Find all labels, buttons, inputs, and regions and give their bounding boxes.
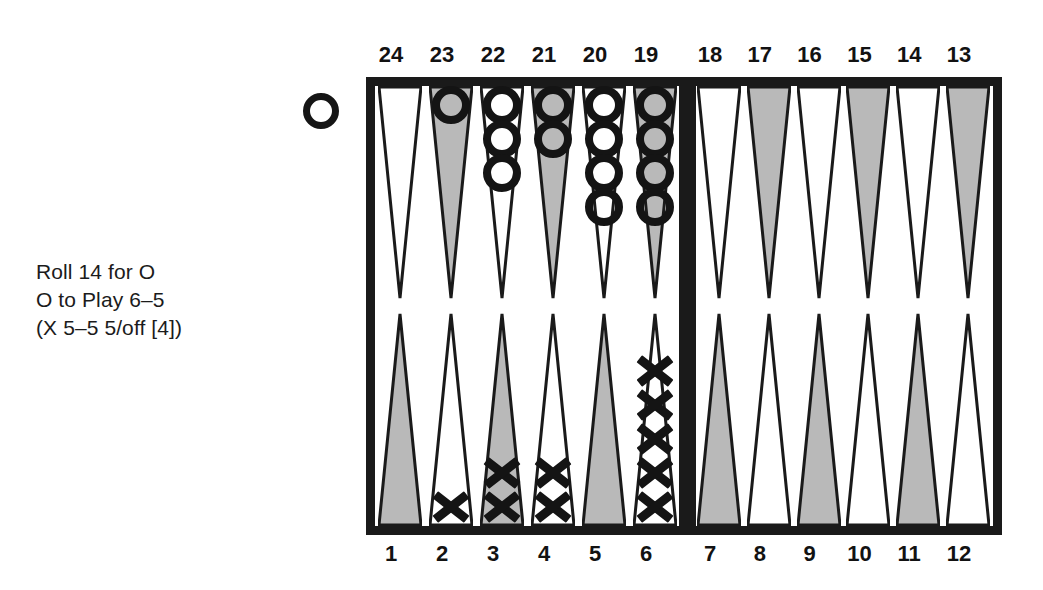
- x-checker-icon[interactable]: [636, 352, 674, 390]
- point-number-6: 6: [624, 541, 668, 567]
- checker-stack-point-4[interactable]: [531, 456, 575, 524]
- backgammon-diagram: Roll 14 for O O to Play 6–5 (X 5–5 5/off…: [0, 0, 1043, 590]
- point-number-16: 16: [788, 42, 832, 68]
- o-checker-icon[interactable]: [534, 120, 572, 158]
- quadrant-bottom-left: [378, 312, 677, 526]
- o-checker-icon[interactable]: [483, 154, 521, 192]
- backgammon-board: [366, 77, 1002, 535]
- checker-stack-point-23[interactable]: [429, 88, 473, 122]
- point-22[interactable]: [480, 86, 524, 300]
- checker-stack-point-19[interactable]: [633, 88, 677, 224]
- point-number-14: 14: [887, 42, 931, 68]
- point-number-24: 24: [369, 42, 413, 68]
- point-6[interactable]: [633, 312, 677, 526]
- o-checker-icon[interactable]: [534, 86, 572, 124]
- point-number-12: 12: [937, 541, 981, 567]
- point-number-8: 8: [738, 541, 782, 567]
- point-numbers-top-right: 181716151413: [688, 42, 981, 68]
- point-2[interactable]: [429, 312, 473, 526]
- checker-stack-point-2[interactable]: [429, 490, 473, 524]
- x-checker-icon[interactable]: [636, 454, 674, 492]
- point-numbers-bottom-left: 123456: [369, 541, 668, 567]
- point-16[interactable]: [797, 86, 841, 300]
- point-10[interactable]: [846, 312, 890, 526]
- point-number-15: 15: [837, 42, 881, 68]
- o-checker-icon[interactable]: [636, 188, 674, 226]
- checker-stack-point-6[interactable]: [633, 354, 677, 524]
- point-18[interactable]: [697, 86, 741, 300]
- o-checker-icon[interactable]: [585, 86, 623, 124]
- point-24[interactable]: [378, 86, 422, 300]
- o-checker-icon[interactable]: [432, 86, 470, 124]
- caption-play-line: O to Play 6–5: [36, 286, 296, 314]
- x-checker-icon[interactable]: [636, 488, 674, 526]
- point-5[interactable]: [582, 312, 626, 526]
- point-number-9: 9: [788, 541, 832, 567]
- point-23[interactable]: [429, 86, 473, 300]
- o-checker-icon[interactable]: [483, 86, 521, 124]
- point-13[interactable]: [946, 86, 990, 300]
- point-numbers-top-left: 242322212019: [369, 42, 668, 68]
- point-number-4: 4: [522, 541, 566, 567]
- caption-opponent-line: (X 5–5 5/off [4]): [36, 314, 296, 342]
- point-15[interactable]: [846, 86, 890, 300]
- point-number-21: 21: [522, 42, 566, 68]
- o-checker-icon[interactable]: [585, 188, 623, 226]
- o-checker-icon[interactable]: [585, 154, 623, 192]
- checker-stack-point-22[interactable]: [480, 88, 524, 190]
- point-numbers-bottom-right: 789101112: [688, 541, 981, 567]
- o-checker-icon[interactable]: [636, 120, 674, 158]
- x-checker-icon[interactable]: [534, 488, 572, 526]
- point-number-10: 10: [837, 541, 881, 567]
- o-checker-icon[interactable]: [636, 154, 674, 192]
- caption-roll-line: Roll 14 for O: [36, 258, 296, 286]
- point-1[interactable]: [378, 312, 422, 526]
- quadrant-top-right: [697, 86, 990, 300]
- point-12[interactable]: [946, 312, 990, 526]
- x-checker-icon[interactable]: [636, 386, 674, 424]
- point-number-20: 20: [573, 42, 617, 68]
- point-number-11: 11: [887, 541, 931, 567]
- point-number-13: 13: [937, 42, 981, 68]
- point-number-19: 19: [624, 42, 668, 68]
- o-checker-icon[interactable]: [636, 86, 674, 124]
- point-8[interactable]: [747, 312, 791, 526]
- quadrant-top-left: [378, 86, 677, 300]
- off-board-o-checker-icon: [303, 93, 339, 129]
- point-3[interactable]: [480, 312, 524, 526]
- point-17[interactable]: [747, 86, 791, 300]
- point-19[interactable]: [633, 86, 677, 300]
- checker-stack-point-21[interactable]: [531, 88, 575, 156]
- point-21[interactable]: [531, 86, 575, 300]
- point-number-17: 17: [738, 42, 782, 68]
- checker-stack-point-20[interactable]: [582, 88, 626, 224]
- point-number-2: 2: [420, 541, 464, 567]
- point-11[interactable]: [896, 312, 940, 526]
- point-number-3: 3: [471, 541, 515, 567]
- board-playing-surface: [375, 86, 993, 526]
- o-checker-icon[interactable]: [483, 120, 521, 158]
- x-checker-icon[interactable]: [483, 488, 521, 526]
- point-number-23: 23: [420, 42, 464, 68]
- point-20[interactable]: [582, 86, 626, 300]
- point-number-5: 5: [573, 541, 617, 567]
- position-caption: Roll 14 for O O to Play 6–5 (X 5–5 5/off…: [36, 258, 296, 342]
- point-4[interactable]: [531, 312, 575, 526]
- point-number-18: 18: [688, 42, 732, 68]
- point-number-1: 1: [369, 541, 413, 567]
- x-checker-icon[interactable]: [534, 454, 572, 492]
- x-checker-icon[interactable]: [636, 420, 674, 458]
- quadrant-bottom-right: [697, 312, 990, 526]
- checker-stack-point-3[interactable]: [480, 456, 524, 524]
- o-checker-icon[interactable]: [585, 120, 623, 158]
- point-number-22: 22: [471, 42, 515, 68]
- point-14[interactable]: [896, 86, 940, 300]
- x-checker-icon[interactable]: [432, 488, 470, 526]
- x-checker-icon[interactable]: [483, 454, 521, 492]
- point-9[interactable]: [797, 312, 841, 526]
- point-number-7: 7: [688, 541, 732, 567]
- point-7[interactable]: [697, 312, 741, 526]
- board-bar: [679, 86, 696, 526]
